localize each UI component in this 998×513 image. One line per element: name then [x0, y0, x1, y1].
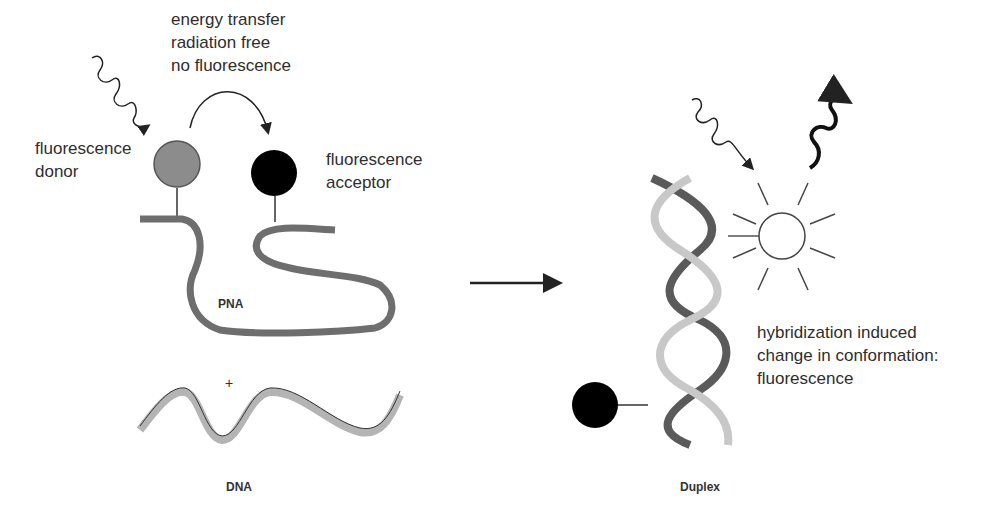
dna-label: DNA — [226, 480, 252, 494]
duplex-helix-icon — [652, 178, 728, 445]
donor-label-1: fluorescence — [35, 139, 131, 159]
pna-strand-icon — [140, 219, 392, 333]
donor-label-2: donor — [35, 162, 78, 182]
acceptor-label-2: acceptor — [326, 173, 391, 193]
emitted-light-icon — [810, 98, 846, 168]
result-label-1: hybridization induced — [757, 323, 917, 343]
diagram-artwork — [0, 0, 998, 513]
excitation-light-icon — [92, 56, 148, 127]
acceptor-quencher-icon — [251, 150, 297, 196]
excitation-light-right-icon — [692, 99, 752, 168]
energy-transfer-label-1: energy transfer — [171, 10, 285, 30]
energy-transfer-label-2: radiation free — [171, 33, 270, 53]
energy-transfer-label-3: no fluorescence — [171, 56, 291, 76]
energy-transfer-arrow-icon — [190, 92, 268, 132]
dna-strand-icon — [140, 392, 400, 440]
plus-sign: + — [225, 373, 233, 393]
emitting-fluorophore-icon — [759, 213, 805, 259]
result-label-3: fluorescence — [757, 369, 853, 389]
separated-quencher-icon — [572, 382, 618, 428]
acceptor-label-1: fluorescence — [326, 150, 422, 170]
pna-label: PNA — [218, 297, 243, 311]
donor-fluorophore-icon — [154, 141, 200, 187]
result-label-2: change in conformation: — [757, 346, 938, 366]
duplex-label: Duplex — [680, 480, 720, 494]
